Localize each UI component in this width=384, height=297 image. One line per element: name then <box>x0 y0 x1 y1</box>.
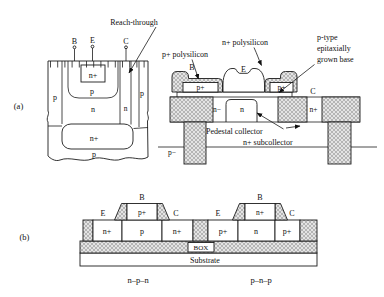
npn-region-collector: n+ <box>173 227 182 236</box>
npn-caption: n–p–n <box>127 275 149 285</box>
device-terminal-c: C <box>310 87 315 96</box>
sti-block-left <box>170 97 213 122</box>
terminal-leads <box>75 48 127 61</box>
figure-canvas: B E C p n+ p n n p n+ p Reach-through (a… <box>0 0 384 297</box>
pnp-caption: p–n–p <box>250 275 271 285</box>
region-label-substrate: p <box>92 150 96 159</box>
reach-through-lines <box>120 61 131 125</box>
callout-n-polysilicon: n+ polysilicon <box>222 38 268 47</box>
pnp-spacer-left <box>233 204 246 221</box>
label-p-plus-left: p+ <box>197 83 205 92</box>
epi-base-film <box>177 92 292 97</box>
region-label-base: p <box>90 87 94 96</box>
callout-epi-base-line1: p-type <box>317 33 338 42</box>
callout-epi-base-line3: grown base <box>317 55 354 64</box>
callout-pedestal-collector: Pedestal collector <box>206 127 263 136</box>
npn-terminal-e: E <box>101 209 106 218</box>
pnp-gate-label: n+ <box>256 208 264 217</box>
subcollector-arrow <box>286 126 300 128</box>
terminal-c: C <box>123 37 128 46</box>
npn-region-emitter: n+ <box>103 227 112 236</box>
label-pedestal-n: n <box>240 105 244 114</box>
pnp-terminal-c: C <box>289 209 294 218</box>
region-label-subcollector: n+ <box>90 134 99 143</box>
pnp-terminal-b: B <box>257 193 262 202</box>
callout-n-subcollector: n+ subcollector <box>243 138 293 147</box>
iso-mid <box>193 220 208 241</box>
terminal-dot-c <box>125 46 128 49</box>
surface-contact-ticks <box>51 61 145 68</box>
substrate-label: Substrate <box>190 256 220 265</box>
panel-b-tag: (b) <box>20 232 30 242</box>
bipolar-transistor-figure: B E C p n+ p n n p n+ p Reach-through (a… <box>0 0 384 297</box>
pnp-region-emitter: p+ <box>219 227 228 236</box>
npn-spacer-left <box>115 204 128 221</box>
terminal-b: B <box>72 37 77 46</box>
terminal-e: E <box>90 36 95 45</box>
iso-end-left <box>83 220 93 241</box>
region-label-collector: n <box>91 105 95 114</box>
region-label-emitter: n+ <box>89 71 98 80</box>
callout-n-poly-arrow <box>254 48 262 66</box>
callout-p-polysilicon: p+ polysilicon <box>162 50 208 59</box>
region-label-right-isolation: p <box>140 89 144 98</box>
npn-terminal-b: B <box>139 193 144 202</box>
npn-region-body: p <box>140 227 144 236</box>
deep-trench-left <box>184 122 206 164</box>
box-label: BOX <box>194 244 209 252</box>
label-reach-n-plus: n+ <box>310 105 318 114</box>
callout-epi-base-line2: epitaxially <box>317 44 351 53</box>
sti-block-right <box>322 97 360 122</box>
panel-a-device: B E C p+ p+ n− n n+ p− p+ polysilicon n+… <box>158 33 377 164</box>
panel-b: BOX Substrate p+ n+ B E C n+ p n+ n–p–n … <box>20 193 317 285</box>
pnp-spacer-right <box>275 204 288 221</box>
device-terminal-e: E <box>241 65 246 74</box>
region-label-left-isolation: p <box>53 93 57 102</box>
terminal-dot-b <box>73 46 76 49</box>
callout-reach-through-arrow <box>129 27 156 73</box>
npn-gate-label: p+ <box>138 208 146 217</box>
pnp-terminal-e: E <box>216 209 221 218</box>
iso-end-right <box>300 220 317 241</box>
deep-trench-right <box>328 122 351 164</box>
panel-a-cross-section: B E C p n+ p n n p n+ p Reach-through (a… <box>14 18 158 161</box>
label-p-minus: p− <box>168 148 176 157</box>
pnp-region-collector: p+ <box>283 227 292 236</box>
terminal-dot-e <box>91 45 94 48</box>
callout-reach-through: Reach-through <box>110 18 158 27</box>
sti-block-mid <box>278 97 307 122</box>
npn-terminal-c: C <box>173 209 178 218</box>
panel-a-tag: (a) <box>14 101 24 111</box>
npn-spacer-right <box>157 204 170 221</box>
pnp-region-body: n <box>254 227 258 236</box>
region-label-reach-through: n <box>124 104 128 113</box>
label-n-minus: n− <box>213 105 221 114</box>
